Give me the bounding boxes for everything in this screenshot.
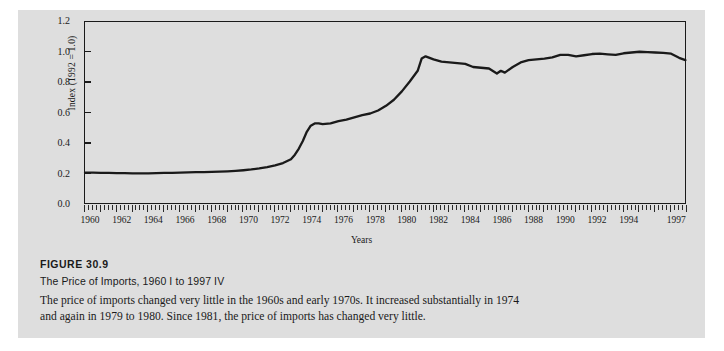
x-minor-tick [266,205,267,210]
x-minor-tick [646,205,647,210]
x-minor-tick [294,205,295,210]
y-tick-mark [85,81,91,82]
x-minor-tick [444,205,445,210]
x-minor-tick [563,205,564,210]
x-minor-tick [139,205,140,210]
x-minor-tick [595,205,596,210]
x-minor-tick [258,205,259,212]
x-minor-tick [638,205,639,212]
x-minor-tick [484,205,485,210]
x-tick-label: 1962 [112,215,131,225]
x-minor-tick [238,205,239,210]
x-tick-label: 1974 [302,215,321,225]
x-minor-tick [231,205,232,210]
x-minor-tick [433,205,434,212]
x-minor-tick [559,205,560,212]
y-tick-label: 0.8 [40,77,70,87]
x-minor-tick [88,205,89,210]
x-minor-tick [349,205,350,210]
x-minor-tick [512,205,513,212]
x-minor-tick [662,205,663,210]
x-minor-tick [448,205,449,212]
x-tick-label: 1968 [207,215,226,225]
x-tick-label: 1997 [667,215,686,225]
x-minor-tick [405,205,406,210]
x-minor-tick [567,205,568,210]
x-tick-label: 1976 [334,215,353,225]
x-minor-tick [468,205,469,210]
x-minor-tick [195,205,196,212]
x-minor-tick [682,205,683,210]
x-minor-tick [84,205,85,212]
x-minor-tick [334,205,335,210]
x-minor-tick [417,205,418,212]
x-minor-tick [650,205,651,210]
x-minor-tick [599,205,600,210]
x-minor-tick [171,205,172,210]
x-minor-tick [135,205,136,210]
x-minor-tick [476,205,477,210]
x-minor-tick [187,205,188,210]
x-minor-tick [579,205,580,210]
x-minor-tick [611,205,612,210]
x-minor-tick [108,205,109,210]
y-tick-label: 0.4 [40,138,70,148]
x-minor-tick [143,205,144,210]
x-minor-tick [369,205,370,212]
x-minor-tick [199,205,200,210]
x-minor-tick [654,205,655,212]
y-tick-label: 0.6 [40,108,70,118]
y-tick-mark [85,142,91,143]
y-tick-mark [85,173,91,174]
x-minor-tick [551,205,552,210]
x-minor-tick [536,205,537,210]
x-minor-tick [365,205,366,210]
x-tick-label: 1990 [556,215,575,225]
figure-caption: FIGURE 30.9 The Price of Imports, 1960 I… [40,258,685,326]
x-minor-tick [159,205,160,210]
x-minor-tick [278,205,279,210]
x-minor-tick [397,205,398,210]
x-minor-tick [151,205,152,210]
x-minor-tick [500,205,501,210]
x-minor-tick [377,205,378,210]
x-minor-tick [409,205,410,210]
price-of-imports-curve [85,52,685,174]
x-minor-tick [120,205,121,210]
x-tick-label: 1984 [461,215,480,225]
x-minor-tick [211,205,212,212]
x-minor-tick [330,205,331,210]
x-minor-tick [488,205,489,210]
x-minor-tick [353,205,354,212]
x-minor-tick [635,205,636,210]
x-tick-label: 1980 [397,215,416,225]
x-minor-tick [341,205,342,210]
x-minor-tick [179,205,180,212]
x-tick-label: 1960 [81,215,100,225]
x-minor-tick [413,205,414,210]
x-tick-label: 1986 [492,215,511,225]
y-tick-label: 1.2 [40,16,70,26]
x-minor-tick [219,205,220,210]
x-minor-tick [587,205,588,210]
x-minor-tick [539,205,540,210]
x-minor-tick [401,205,402,212]
x-minor-tick [686,205,687,212]
x-minor-tick [175,205,176,210]
figure-description: The price of imports changed very little… [40,293,538,326]
x-minor-tick [480,205,481,212]
x-minor-tick [223,205,224,210]
figure-number: FIGURE 30.9 [40,258,685,270]
x-minor-tick [393,205,394,210]
x-minor-tick [623,205,624,212]
x-minor-tick [132,205,133,212]
x-minor-tick [658,205,659,210]
x-minor-tick [167,205,168,210]
x-minor-tick [627,205,628,210]
x-minor-tick [520,205,521,210]
x-minor-tick [318,205,319,210]
x-tick-label: 1992 [587,215,606,225]
x-minor-tick [666,205,667,210]
x-axis-title: Years [18,235,705,245]
x-minor-tick [116,205,117,212]
